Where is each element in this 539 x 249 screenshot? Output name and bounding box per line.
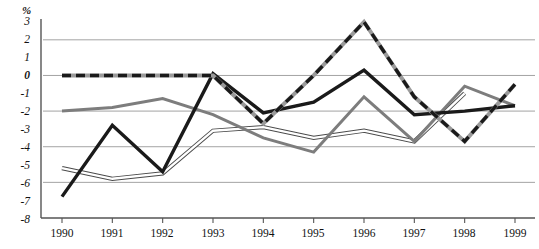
x-axis-tick-1998: 1998 [441, 227, 487, 239]
x-axis-ticks-group [62, 218, 515, 223]
chart-plot-area [0, 0, 539, 249]
data-series-group [62, 22, 515, 197]
x-axis-tick-1990: 1990 [39, 227, 85, 239]
x-axis-tick-1999: 1999 [492, 227, 538, 239]
x-axis-tick-1996: 1996 [341, 227, 387, 239]
x-axis-tick-1994: 1994 [240, 227, 286, 239]
x-axis-tick-1991: 1991 [89, 227, 135, 239]
x-axis-tick-1995: 1995 [290, 227, 336, 239]
x-axis-tick-1992: 1992 [139, 227, 185, 239]
x-axis-tick-1993: 1993 [190, 227, 236, 239]
x-axis-tick-1997: 1997 [391, 227, 437, 239]
line-chart: % 3 2 1 0 -1 -2 -3 -4 -5 -6 -7 -8 1990 1… [0, 0, 539, 249]
axes-group [41, 19, 535, 218]
